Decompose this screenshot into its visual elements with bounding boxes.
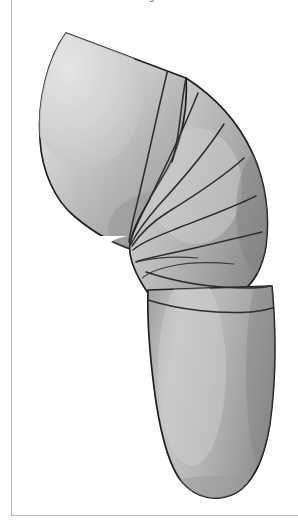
bandaged-knee-figure [0,0,298,528]
paper-grain-overlay [30,25,282,505]
illustration-page: Fig. [0,0,298,528]
